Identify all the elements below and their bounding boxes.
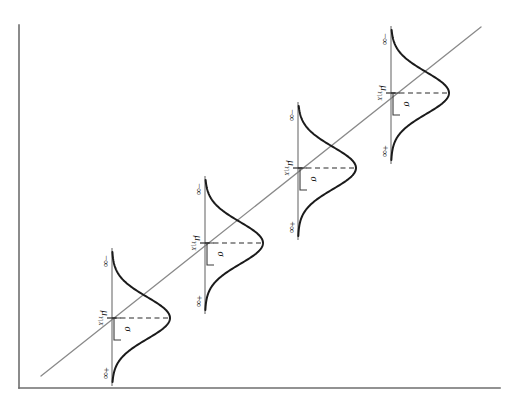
distribution-4: −∞+∞μY|Xσ <box>378 26 449 164</box>
normal-curve <box>112 252 170 382</box>
upper-endpoint-label: −∞ <box>380 33 390 45</box>
sigma-label: σ <box>402 102 413 108</box>
distributions-group: −∞+∞μY|Xσ−∞+∞μY|Xσ−∞+∞μY|Xσ−∞+∞μY|Xσ <box>99 26 449 386</box>
upper-endpoint-label: −∞ <box>287 109 297 121</box>
figure-canvas: −∞+∞μY|Xσ−∞+∞μY|Xσ−∞+∞μY|Xσ−∞+∞μY|Xσ <box>0 0 515 406</box>
mu-subscript: Y|X <box>192 241 199 252</box>
lower-endpoint-label: +∞ <box>380 145 390 157</box>
lower-endpoint-label: +∞ <box>101 367 111 379</box>
sigma-label: σ <box>123 327 134 333</box>
regression-line <box>41 27 481 376</box>
distribution-3: −∞+∞μY|Xσ <box>285 102 356 240</box>
sigma-bracket <box>114 318 121 340</box>
sigma-bracket <box>300 168 307 190</box>
normal-curve <box>391 30 449 160</box>
plot-axes <box>19 25 500 388</box>
normal-curve <box>205 180 263 310</box>
lower-endpoint-label: +∞ <box>194 295 204 307</box>
distribution-2: −∞+∞μY|Xσ <box>192 176 263 314</box>
mu-subscript: Y|X <box>99 316 106 327</box>
sigma-label: σ <box>309 177 320 183</box>
distribution-1: −∞+∞μY|Xσ <box>99 248 170 386</box>
sigma-label: σ <box>216 252 227 258</box>
upper-endpoint-label: −∞ <box>101 255 111 267</box>
lower-endpoint-label: +∞ <box>287 221 297 233</box>
sigma-bracket <box>207 243 214 265</box>
mu-subscript: Y|X <box>285 166 292 177</box>
regression-line-group <box>41 27 481 376</box>
normal-curve <box>298 106 356 236</box>
mu-subscript: Y|X <box>378 91 385 102</box>
upper-endpoint-label: −∞ <box>194 183 204 195</box>
figure-root: −∞+∞μY|Xσ−∞+∞μY|Xσ−∞+∞μY|Xσ−∞+∞μY|Xσ <box>0 0 515 406</box>
